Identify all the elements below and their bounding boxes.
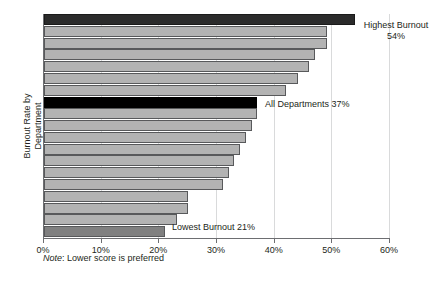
- bar: [44, 85, 286, 96]
- bar-series: [44, 14, 390, 238]
- bar: [44, 179, 223, 190]
- chart-figure: Burnout Rate by Department 0%10%20%30%40…: [0, 0, 443, 287]
- note-label: Note: [43, 253, 62, 263]
- x-axis-tick-label: 60%: [380, 245, 398, 255]
- bar: [44, 191, 188, 202]
- annotation-highest-burnout: Highest Burnout 54%: [352, 20, 440, 42]
- x-axis-tick: [331, 238, 332, 243]
- bar: [44, 132, 246, 143]
- bar: [44, 26, 327, 37]
- bar: [44, 108, 257, 119]
- x-axis-tick: [101, 238, 102, 243]
- annotation-lowest-burnout: Lowest Burnout 21%: [172, 222, 255, 233]
- y-axis-title: Burnout Rate by Department: [22, 46, 44, 206]
- x-axis-tick-label: 40%: [265, 245, 283, 255]
- bar: [44, 14, 355, 25]
- chart-note: Note: Lower score is preferred: [43, 253, 164, 263]
- bar: [44, 73, 298, 84]
- x-axis-tick: [274, 238, 275, 243]
- note-text: : Lower score is preferred: [62, 253, 164, 263]
- bar: [44, 38, 327, 49]
- bar: [44, 144, 240, 155]
- annotation-all-departments: All Departments 37%: [265, 99, 350, 110]
- bar: [44, 49, 315, 60]
- bar: [44, 97, 257, 108]
- x-axis-tick: [43, 238, 44, 243]
- x-axis-tick: [216, 238, 217, 243]
- bar: [44, 203, 188, 214]
- bar: [44, 61, 309, 72]
- bar: [44, 155, 234, 166]
- x-axis-tick: [158, 238, 159, 243]
- plot-area: 0%10%20%30%40%50%60%: [43, 14, 389, 238]
- x-axis-tick-label: 50%: [322, 245, 340, 255]
- bar: [44, 167, 229, 178]
- bar: [44, 120, 252, 131]
- x-axis-tick: [389, 238, 390, 243]
- bar: [44, 226, 165, 237]
- bar: [44, 214, 177, 225]
- x-axis-tick-label: 30%: [207, 245, 225, 255]
